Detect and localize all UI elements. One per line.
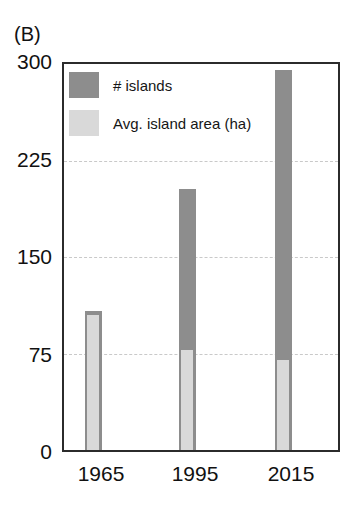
plot-area: # islands Avg. island area (ha): [62, 62, 340, 452]
y-tick-300: 300: [0, 50, 52, 74]
y-tick-150: 150: [0, 245, 52, 269]
bar-area-2015: [277, 360, 289, 450]
x-axis: 1965 1995 2015: [0, 462, 356, 502]
legend-label-islands: # islands: [113, 77, 172, 94]
x-tick-1995: 1995: [172, 462, 219, 486]
x-tick-2015: 2015: [268, 462, 315, 486]
plot-inner: # islands Avg. island area (ha): [64, 64, 338, 450]
legend: # islands Avg. island area (ha): [69, 69, 299, 145]
figure-panel-b: (B) 300 225 150 75 0: [0, 0, 356, 521]
y-tick-0: 0: [0, 440, 52, 464]
legend-swatch-icon-islands: [69, 72, 99, 98]
legend-entry-area: Avg. island area (ha): [69, 107, 299, 139]
bar-area-1965: [87, 315, 99, 450]
x-tick-1965: 1965: [78, 462, 125, 486]
legend-label-area: Avg. island area (ha): [113, 115, 251, 132]
legend-entry-islands: # islands: [69, 69, 299, 101]
y-tick-75: 75: [0, 343, 52, 367]
y-axis: 300 225 150 75 0: [0, 0, 58, 521]
y-tick-225: 225: [0, 148, 52, 172]
bar-area-1995: [181, 350, 193, 450]
legend-swatch-icon-area: [69, 110, 99, 136]
